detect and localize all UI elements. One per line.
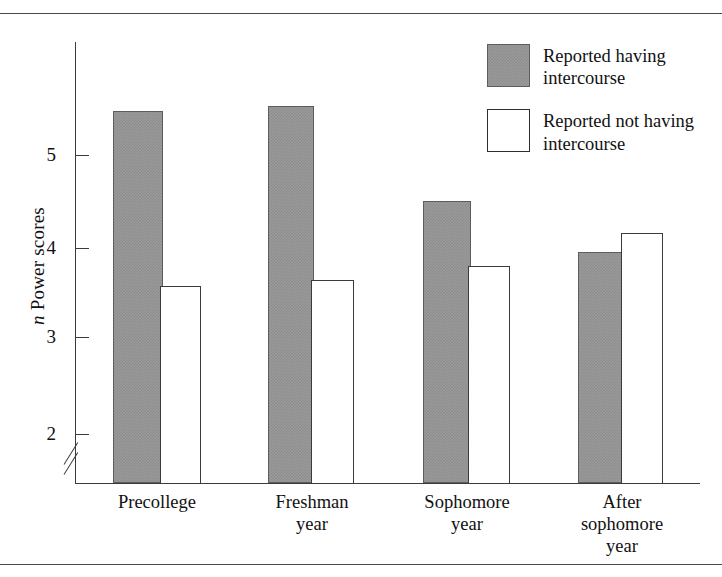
bar-sophomore-not-having	[468, 266, 510, 483]
bar-sophomore-having	[423, 201, 471, 483]
bar-chart: 5 4 3 2 n Power scores	[0, 0, 722, 577]
x-category-freshman: Freshmanyear	[251, 492, 373, 536]
legend-label-not-having: Reported not having intercourse	[543, 109, 717, 154]
legend-item-not-having: Reported not having intercourse	[487, 109, 717, 154]
x-axis-line	[75, 483, 700, 484]
legend-label-having: Reported having intercourse	[543, 44, 717, 89]
legend-item-having: Reported having intercourse	[487, 44, 717, 89]
bar-after-sophomore-not-having	[621, 233, 663, 483]
bar-freshman-having	[268, 106, 314, 483]
chart-legend: Reported having intercourse Reported not…	[487, 44, 717, 175]
x-category-after-sophomore: Aftersophomoreyear	[558, 492, 686, 557]
x-category-sophomore: Sophomoreyear	[405, 492, 529, 536]
x-category-precollege: Precollege	[97, 492, 217, 514]
figure-page: 5 4 3 2 n Power scores	[0, 0, 722, 577]
legend-swatch-filled-icon	[487, 44, 530, 87]
bar-precollege-not-having	[160, 286, 201, 483]
legend-swatch-open-icon	[487, 109, 530, 152]
bar-after-sophomore-having	[578, 252, 624, 483]
bar-freshman-not-having	[311, 280, 354, 483]
bar-precollege-having	[113, 111, 163, 483]
